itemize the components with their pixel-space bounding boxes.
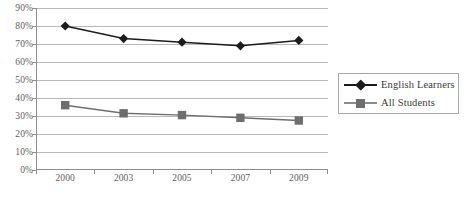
y-axis-tick-label: 30% <box>0 111 33 121</box>
y-axis-tick-label: 80% <box>0 21 33 31</box>
legend-key-square-icon <box>344 97 377 109</box>
y-axis-tick-label: 20% <box>0 129 33 139</box>
data-point-diamond <box>236 41 245 50</box>
data-point-diamond <box>177 38 186 47</box>
chart-legend: English Learners All Students <box>338 73 459 114</box>
y-axis-tick-label: 0% <box>0 165 33 175</box>
y-axis-tick-label: 60% <box>0 57 33 67</box>
y-axis-tick-labels: 90%80%70%60%50%40%30%20%10%0% <box>0 0 33 170</box>
figure-caption <box>0 199 467 206</box>
y-axis-tick-label: 70% <box>0 39 33 49</box>
series-layer <box>36 8 328 170</box>
data-point-square <box>295 116 303 124</box>
x-axis-tick-labels: 20002003200520072009 <box>36 172 328 186</box>
series-all-students <box>61 101 303 125</box>
y-axis-tick-label: 10% <box>0 147 33 157</box>
data-point-square <box>119 109 127 117</box>
legend-item-all-students[interactable]: All Students <box>344 95 435 111</box>
data-point-diamond <box>119 34 128 43</box>
legend-label-english-learners: English Learners <box>381 79 455 91</box>
x-axis-tick-label: 2009 <box>289 172 308 184</box>
x-axis-tick-label: 2005 <box>172 172 191 184</box>
plot-area <box>36 8 328 170</box>
data-point-diamond <box>61 21 70 30</box>
x-axis-tick-label: 2007 <box>231 172 250 184</box>
y-axis-tick-label: 50% <box>0 75 33 85</box>
data-point-square <box>178 111 186 119</box>
data-point-diamond <box>294 36 303 45</box>
legend-item-english-learners[interactable]: English Learners <box>344 77 455 93</box>
series-english-learners <box>61 21 304 50</box>
legend-key-diamond-icon <box>344 79 377 91</box>
x-axis-tick-label: 2003 <box>114 172 133 184</box>
x-axis-tick-label: 2000 <box>55 172 74 184</box>
legend-label-all-students: All Students <box>381 97 435 109</box>
line-chart: 90%80%70%60%50%40%30%20%10%0% 2000200320… <box>0 0 467 206</box>
y-axis-tick-label: 40% <box>0 93 33 103</box>
y-axis-tick-label: 90% <box>0 3 33 13</box>
data-point-square <box>236 114 244 122</box>
data-point-square <box>61 101 69 109</box>
